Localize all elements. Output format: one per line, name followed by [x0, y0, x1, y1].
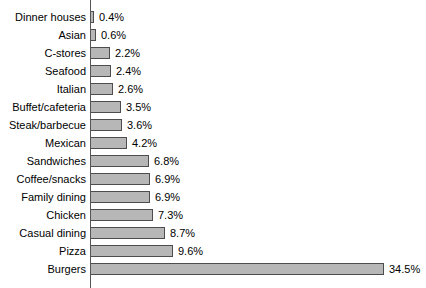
bar-value-label: 0.6% [101, 29, 126, 41]
bar-and-value: 3.5% [91, 101, 151, 113]
bar-and-value: 0.4% [91, 11, 124, 23]
bar-and-value: 6.8% [91, 155, 179, 167]
bar-and-value: 7.3% [91, 209, 183, 221]
bar-row: Buffet/cafeteria3.5% [0, 98, 426, 116]
bar [91, 245, 173, 257]
category-label: Chicken [0, 206, 86, 224]
bar [91, 83, 113, 95]
bar [91, 137, 127, 149]
bar-and-value: 9.6% [91, 245, 203, 257]
bar-rows-container: Dinner houses0.4%Asian0.6%C-stores2.2%Se… [0, 8, 426, 278]
bar-value-label: 2.6% [118, 83, 143, 95]
bar-row: Italian2.6% [0, 80, 426, 98]
bar-row: Asian0.6% [0, 26, 426, 44]
bar [91, 11, 94, 23]
bar-value-label: 6.8% [154, 155, 179, 167]
bar-and-value: 34.5% [91, 263, 420, 275]
bar-value-label: 34.5% [389, 263, 420, 275]
bar-value-label: 3.5% [126, 101, 151, 113]
category-label: Family dining [0, 188, 86, 206]
bar-value-label: 2.2% [115, 47, 140, 59]
bar-row: Pizza9.6% [0, 242, 426, 260]
bar-value-label: 6.9% [155, 173, 180, 185]
bar-value-label: 4.2% [132, 137, 157, 149]
category-label: Buffet/cafeteria [0, 98, 86, 116]
horizontal-bar-chart: Dinner houses0.4%Asian0.6%C-stores2.2%Se… [0, 0, 426, 288]
category-label: Coffee/snacks [0, 170, 86, 188]
bar [91, 29, 96, 41]
bar [91, 101, 121, 113]
bar [91, 47, 110, 59]
category-label: Sandwiches [0, 152, 86, 170]
bar-row: C-stores2.2% [0, 44, 426, 62]
bar-row: Dinner houses0.4% [0, 8, 426, 26]
bar-and-value: 4.2% [91, 137, 157, 149]
bar-value-label: 7.3% [158, 209, 183, 221]
bar-and-value: 0.6% [91, 29, 126, 41]
bar-row: Mexican4.2% [0, 134, 426, 152]
bar-and-value: 2.2% [91, 47, 140, 59]
category-label: Burgers [0, 260, 86, 278]
category-label: Italian [0, 80, 86, 98]
bar [91, 119, 122, 131]
bar-row: Casual dining8.7% [0, 224, 426, 242]
bar-row: Family dining6.9% [0, 188, 426, 206]
bar-value-label: 9.6% [178, 245, 203, 257]
bar-row: Burgers34.5% [0, 260, 426, 278]
bar [91, 173, 150, 185]
bar-and-value: 3.6% [91, 119, 152, 131]
bar-value-label: 0.4% [99, 11, 124, 23]
bar-and-value: 6.9% [91, 191, 180, 203]
category-label: Dinner houses [0, 8, 86, 26]
bar-row: Seafood2.4% [0, 62, 426, 80]
bar-value-label: 6.9% [155, 191, 180, 203]
category-label: Steak/barbecue [0, 116, 86, 134]
bar [91, 155, 149, 167]
bar-value-label: 8.7% [170, 227, 195, 239]
category-label: Casual dining [0, 224, 86, 242]
bar-row: Coffee/snacks6.9% [0, 170, 426, 188]
category-label: Mexican [0, 134, 86, 152]
category-label: Asian [0, 26, 86, 44]
bar-and-value: 2.6% [91, 83, 143, 95]
bar [91, 227, 165, 239]
bar-and-value: 8.7% [91, 227, 195, 239]
bar-row: Chicken7.3% [0, 206, 426, 224]
category-label: C-stores [0, 44, 86, 62]
bar [91, 65, 111, 77]
bar-value-label: 2.4% [116, 65, 141, 77]
bar-row: Steak/barbecue3.6% [0, 116, 426, 134]
bar [91, 191, 150, 203]
category-label: Pizza [0, 242, 86, 260]
bar-row: Sandwiches6.8% [0, 152, 426, 170]
bar [91, 209, 153, 221]
bar [91, 263, 384, 275]
bar-and-value: 6.9% [91, 173, 180, 185]
bar-and-value: 2.4% [91, 65, 141, 77]
category-label: Seafood [0, 62, 86, 80]
bar-value-label: 3.6% [127, 119, 152, 131]
